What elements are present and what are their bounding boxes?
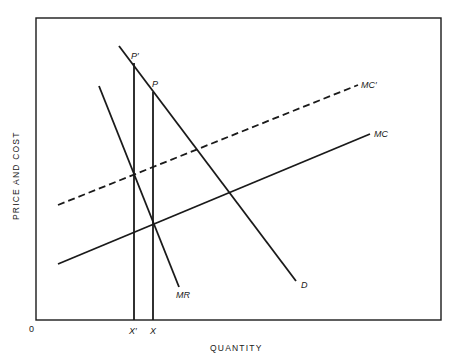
marginal-revenue-curve: [99, 86, 179, 287]
label-d: D: [301, 280, 308, 290]
y-axis-title: PRICE AND COST: [11, 131, 21, 220]
label-p-prime: P′: [131, 51, 139, 61]
marginal-cost-curve: [58, 134, 370, 264]
plot-frame: [36, 18, 441, 320]
label-p: P: [152, 79, 158, 89]
label-x-prime: X′: [128, 326, 137, 336]
origin-label: 0: [29, 324, 34, 334]
marginal-cost-prime-curve: [58, 85, 358, 205]
economics-diagram: P′ P MC′ MC MR D X′ X 0 QUANTITY PRICE A…: [0, 0, 456, 353]
label-mr: MR: [176, 290, 190, 300]
x-axis-title: QUANTITY: [210, 343, 263, 353]
label-mc-prime: MC′: [361, 80, 377, 90]
label-mc: MC: [374, 129, 388, 139]
label-x: X: [149, 326, 157, 336]
demand-curve: [119, 46, 296, 281]
